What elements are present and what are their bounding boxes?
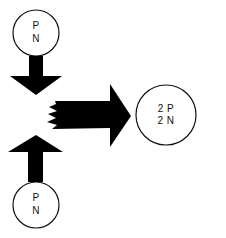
node-product: 2 P 2 N	[136, 85, 196, 145]
node-bottom-line-2: N	[32, 205, 40, 216]
node-product-line-2: 2 N	[157, 115, 174, 126]
node-top: P N	[13, 10, 59, 56]
node-bottom: P N	[13, 182, 59, 228]
node-product-line-1: 2 P	[158, 103, 175, 114]
fusion-diagram: P N P N 2 P 2 N	[0, 0, 226, 238]
down-arrow-icon	[10, 56, 62, 95]
node-bottom-line-1: P	[32, 192, 39, 203]
up-arrow-icon	[8, 135, 63, 182]
right-arrow-icon	[47, 84, 131, 147]
node-top-line-1: P	[32, 20, 39, 31]
node-top-line-2: N	[32, 33, 40, 44]
